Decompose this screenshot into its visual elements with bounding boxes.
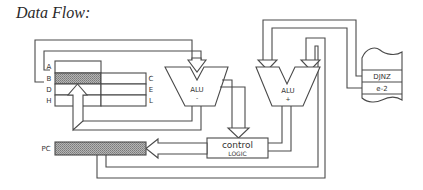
register-b [55,73,101,84]
register-e [101,84,146,95]
pc-label: PC [41,145,50,153]
alu-left-to-control-path [220,80,249,138]
data-flow-diagram: A B D H C E L ALU - ALU + [0,0,423,190]
register-c [101,73,146,84]
alu-right-label: ALU [281,87,294,95]
control-label: control [222,140,253,150]
label-b: B [47,75,52,83]
memory-row-djnz: DJNZ [373,73,391,81]
label-d: D [46,86,51,94]
memory-row-offset: e-2 [376,85,387,93]
up-arrow-icon [68,84,87,130]
down-arrow-icon [228,128,249,138]
label-e: E [149,86,153,94]
label-h: H [46,97,51,105]
alu-left-op: - [196,94,198,101]
left-arrow-icon [146,139,207,158]
register-file [55,61,146,106]
alu-left-label: ALU [190,86,203,94]
pc-register [55,142,146,155]
alu-right-to-control-path [268,106,291,151]
register-l [101,95,146,106]
register-a [55,61,101,73]
logic-label: LOGIC [228,150,246,157]
label-a: A [47,63,52,71]
label-l: L [149,97,153,105]
alu-right-op: + [285,95,290,102]
label-c: C [149,75,154,83]
